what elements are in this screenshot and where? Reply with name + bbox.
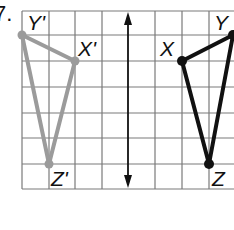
vertex-y-prime xyxy=(18,31,27,40)
reflection-diagram: Y' X' Z' X Y Z xyxy=(0,0,234,230)
line-of-reflection xyxy=(124,12,132,188)
label-x: X xyxy=(159,37,175,60)
label-y: Y xyxy=(214,11,230,34)
label-y-prime: Y' xyxy=(27,11,46,34)
label-z: Z xyxy=(211,167,226,190)
arrow-down-icon xyxy=(124,175,132,188)
label-x-prime: X' xyxy=(77,37,97,60)
arrow-up-icon xyxy=(124,12,132,25)
vertex-x xyxy=(177,56,187,66)
preimage-triangle xyxy=(177,30,234,169)
label-z-prime: Z' xyxy=(50,167,69,190)
